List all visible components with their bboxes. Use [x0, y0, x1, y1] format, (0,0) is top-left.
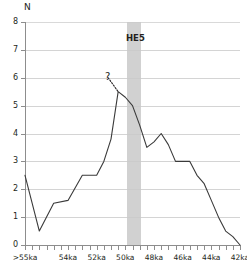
chart-container: N HE5 8 7 6 5 4 3 2 1 0 — [0, 0, 247, 273]
uncertainty-dotted-leader — [108, 78, 118, 92]
series-layer — [0, 0, 247, 273]
series-line — [25, 92, 240, 245]
